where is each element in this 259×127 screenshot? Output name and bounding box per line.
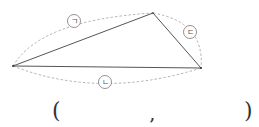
answer-open-paren: (	[52, 98, 61, 123]
label-nieun: ㄴ	[99, 76, 112, 89]
svg-text:ㄱ: ㄱ	[71, 17, 78, 26]
svg-text:ㄷ: ㄷ	[187, 28, 194, 37]
vertex-right	[200, 67, 202, 69]
answer-close-paren: )	[244, 98, 253, 123]
vertex-top	[152, 12, 154, 14]
label-digeut: ㄷ	[184, 26, 197, 39]
answer-separator: ,	[150, 107, 155, 123]
vertex-left	[12, 65, 14, 67]
svg-text:ㄴ: ㄴ	[102, 78, 109, 87]
label-giyeok: ㄱ	[68, 15, 81, 28]
triangle-diagram: ㄱ ㄷ ㄴ	[0, 0, 259, 100]
triangle	[13, 13, 201, 68]
